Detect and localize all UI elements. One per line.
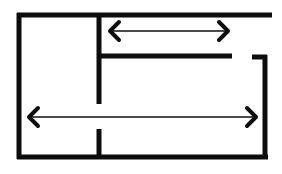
diagram-background xyxy=(0,0,282,174)
floor-plan-diagram xyxy=(0,0,282,174)
floor-plan-canvas xyxy=(0,0,282,174)
